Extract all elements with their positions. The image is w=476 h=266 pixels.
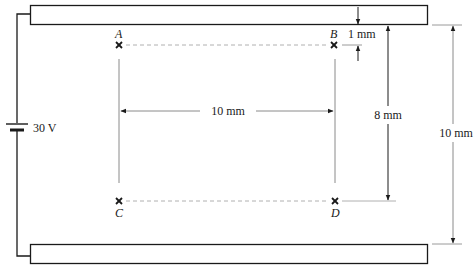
point-marker-b <box>331 42 337 48</box>
point-marker-d <box>332 198 338 204</box>
point-label-a: A <box>114 27 123 41</box>
depth-label: 8 mm <box>374 108 402 122</box>
top-plate <box>31 6 428 25</box>
point-label-c: C <box>115 206 124 220</box>
gap-label: 1 mm <box>348 27 376 41</box>
point-label-d: D <box>330 206 340 220</box>
battery-icon <box>6 124 28 130</box>
bottom-plate <box>31 245 428 264</box>
point-marker-a <box>116 42 122 48</box>
circuit-wire <box>17 14 30 256</box>
ab-width-label: 10 mm <box>211 104 245 118</box>
separation-label: 10 mm <box>439 126 473 140</box>
point-label-b: B <box>330 27 338 41</box>
point-marker-c <box>116 198 122 204</box>
battery-voltage-label: 30 V <box>33 121 57 135</box>
capacitor-diagram: 30 V A B C D 10 mm 1 m <box>0 0 476 266</box>
